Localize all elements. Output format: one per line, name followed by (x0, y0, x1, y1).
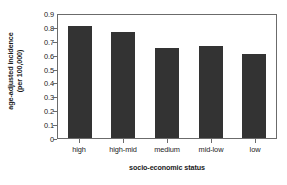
y-tick-label: 0.7 (28, 37, 54, 46)
y-tick-label: 0.3 (28, 93, 54, 102)
x-category-label: mid-low (189, 145, 233, 157)
x-category-label: medium (145, 145, 189, 157)
y-tick-label: 0.1 (28, 121, 54, 130)
bar (199, 46, 223, 138)
y-tick-mark (53, 97, 57, 98)
x-axis-title: socio-economic status (57, 163, 277, 172)
bar-slot (155, 15, 179, 138)
x-axis-category-labels: highhigh-midmediummid-lowlow (57, 145, 277, 157)
bar-slot (111, 15, 135, 138)
plot-area (57, 14, 277, 139)
y-tick-mark (53, 28, 57, 29)
bar (155, 48, 179, 138)
y-tick-label: 0.4 (28, 79, 54, 88)
x-tick-mark (167, 139, 168, 143)
y-tick-label: 0.9 (28, 10, 54, 19)
y-axis-tick-labels: 0.90.80.70.60.50.40.30.20.10 (28, 14, 54, 140)
y-tick-mark (53, 125, 57, 126)
y-axis-title-line2: (per 100,000) (15, 32, 24, 109)
y-tick-mark (53, 83, 57, 84)
bar (111, 32, 135, 138)
y-axis-title: age-adjusted incidence (per 100,000) (0, 0, 30, 142)
y-tick-mark (53, 56, 57, 57)
bar (242, 54, 266, 138)
x-category-label: high (57, 145, 101, 157)
y-tick-mark (53, 42, 57, 43)
y-tick-label: 0.6 (28, 51, 54, 60)
x-category-label: low (233, 145, 277, 157)
y-tick-label: 0.2 (28, 107, 54, 116)
x-category-label: high-mid (101, 145, 145, 157)
y-tick-mark (53, 70, 57, 71)
x-tick-mark (79, 139, 80, 143)
bar-slot (199, 15, 223, 138)
bar (68, 26, 92, 139)
bar-chart-figure: age-adjusted incidence (per 100,000) 0.9… (0, 0, 287, 185)
y-tick-label: 0.8 (28, 23, 54, 32)
bar-slot (68, 15, 92, 138)
y-tick-mark (53, 139, 57, 140)
x-tick-mark (123, 139, 124, 143)
y-tick-label: 0.5 (28, 65, 54, 74)
y-tick-label: 0 (28, 135, 54, 144)
bar-slot (242, 15, 266, 138)
x-tick-mark (211, 139, 212, 143)
x-tick-mark (255, 139, 256, 143)
y-tick-mark (53, 111, 57, 112)
bar-series (58, 15, 276, 138)
